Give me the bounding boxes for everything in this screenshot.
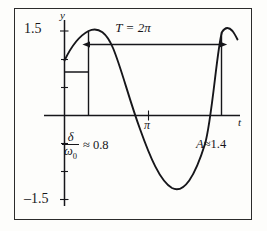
amplitude-value: 1.4 [211,137,227,151]
amplitude-approx-sign: ≈ [204,137,211,151]
ratio-value: 0.8 [93,139,109,152]
ratio-numerator: δ [66,131,76,144]
period-label: T = 2π [115,21,150,34]
amplitude-symbol: A [196,137,204,151]
ratio-denominator-symbol: ω [64,144,73,158]
oscillation-curve [65,28,238,189]
t-axis-label: t [238,117,241,128]
decay-ratio-fraction: δ ω0 [62,131,79,160]
amplitude-label: A≈1.4 [196,138,226,151]
ratio-denominator-subscript: 0 [73,151,77,161]
damped-oscillation-figure: 1.5 –1.5 y t π T = 2π A≈1.4 δ ω0 ≈ 0.8 [0,0,267,231]
y-max-label: 1.5 [24,22,42,36]
ratio-denominator: ω0 [62,145,79,160]
y-axis-label: y [60,10,65,21]
ratio-approx-sign: ≈ [82,139,90,152]
y-min-label: –1.5 [24,192,49,206]
pi-tick-label: π [144,119,150,131]
decay-ratio-label: δ ω0 ≈ 0.8 [62,131,109,160]
